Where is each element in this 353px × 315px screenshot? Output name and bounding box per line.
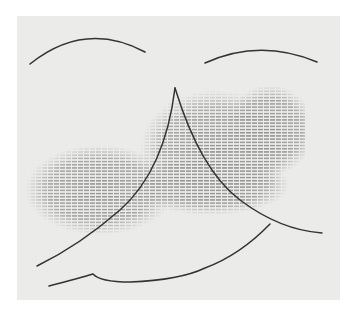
line-drawing (0, 0, 353, 315)
left-eyebrow (30, 39, 145, 64)
right-eyebrow (205, 50, 317, 63)
